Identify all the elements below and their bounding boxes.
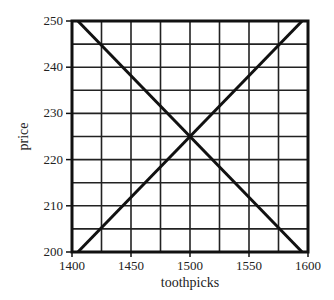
y-axis-label: price <box>16 123 31 151</box>
x-tick-label: 1550 <box>236 258 262 273</box>
x-axis-label: toothpicks <box>161 275 219 290</box>
x-tick-label: 1400 <box>59 258 85 273</box>
x-tick-label: 1600 <box>295 258 321 273</box>
y-axis-ticks: 200210220230240250 <box>44 13 73 259</box>
y-tick-label: 210 <box>44 198 64 213</box>
y-tick-label: 250 <box>44 13 64 28</box>
y-tick-label: 230 <box>44 105 64 120</box>
y-tick-label: 220 <box>44 152 64 167</box>
x-axis-ticks: 14001450150015501600 <box>59 252 321 273</box>
x-tick-label: 1450 <box>118 258 144 273</box>
chart: 200210220230240250 14001450150015501600 … <box>0 0 334 300</box>
x-tick-label: 1500 <box>177 258 203 273</box>
y-tick-label: 200 <box>44 244 64 259</box>
y-tick-label: 240 <box>44 59 64 74</box>
